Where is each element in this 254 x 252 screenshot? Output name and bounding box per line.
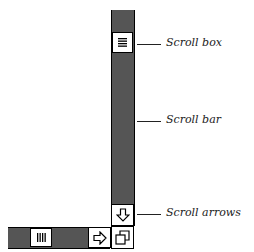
- horizontal-lines-icon: [118, 38, 127, 47]
- scroll-arrows-label: Scroll arrows: [166, 206, 241, 219]
- horizontal-scroll-box[interactable]: [30, 228, 52, 247]
- scroll-box-leader: [137, 44, 161, 45]
- scroll-bar-leader: [137, 121, 161, 122]
- resize-icon: [115, 230, 130, 245]
- scroll-arrows-leader: [137, 214, 161, 215]
- scroll-right-button[interactable]: [88, 227, 111, 248]
- down-arrow-icon: [116, 208, 130, 222]
- vertical-lines-icon: [37, 233, 46, 242]
- right-arrow-icon: [93, 231, 107, 245]
- vertical-scroll-box[interactable]: [112, 32, 133, 53]
- size-box[interactable]: [111, 226, 134, 249]
- scroll-box-label: Scroll box: [166, 36, 222, 49]
- scroll-bar-label: Scroll bar: [166, 113, 221, 126]
- scroll-down-button[interactable]: [111, 204, 134, 226]
